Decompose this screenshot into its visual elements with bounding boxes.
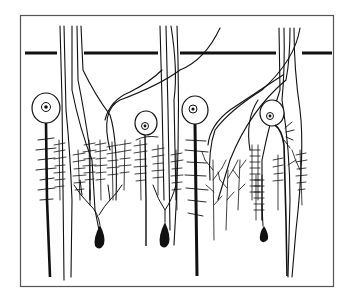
neuron-cell-3	[182, 96, 208, 276]
neuron-cell-1	[32, 93, 60, 277]
fiber-bundle-right	[208, 28, 302, 277]
fiber-bundle-middle	[105, 26, 179, 245]
neuron-cell-2	[135, 111, 158, 246]
drawing-canvas	[0, 0, 352, 305]
bipolar-cell-1	[74, 180, 122, 249]
bipolar-cell-2	[153, 185, 176, 248]
bipolar-cell-3	[260, 205, 268, 242]
neuron-illustration	[0, 0, 352, 305]
dendritic-tufts	[54, 140, 307, 240]
